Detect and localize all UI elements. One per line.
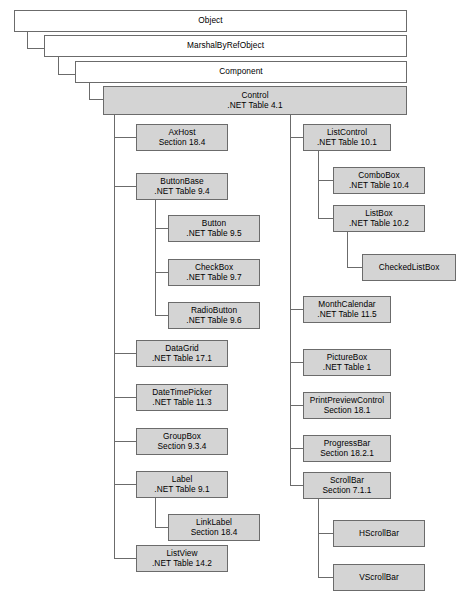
connector-branch-hscrollbar <box>318 533 333 534</box>
node-vscrollbar: VScrollBar <box>333 564 425 591</box>
node-listview: ListView .NET Table 14.2 <box>136 545 228 572</box>
node-object: Object <box>14 10 407 32</box>
node-component: Component <box>75 61 407 83</box>
connector-component-to-control <box>89 83 90 100</box>
connector-branch-picturebox <box>290 362 303 363</box>
node-radiobutton-ref: .NET Table 9.6 <box>186 316 241 326</box>
connector-buttonbase-subtrunk <box>155 200 156 316</box>
connector-branch-progressbar <box>290 448 303 449</box>
connector-branch-datagrid <box>114 353 136 354</box>
node-listcontrol-ref: .NET Table 10.1 <box>317 138 377 148</box>
node-listbox-ref: .NET Table 10.2 <box>349 219 409 229</box>
node-component-name: Component <box>219 67 262 77</box>
connector-label-subtrunk <box>155 498 156 528</box>
node-buttonbase: ButtonBase .NET Table 9.4 <box>136 173 228 200</box>
node-datetimepicker-ref: .NET Table 11.3 <box>152 398 211 408</box>
node-hscrollbar: HScrollBar <box>333 520 425 547</box>
node-control: Control .NET Table 4.1 <box>103 86 407 115</box>
node-label-ref: .NET Table 9.1 <box>154 485 209 495</box>
node-control-ref: .NET Table 4.1 <box>227 101 282 111</box>
node-object-name: Object <box>198 16 222 26</box>
node-marshalbyrefobject-name: MarshalByRefObject <box>187 41 264 51</box>
connector-branch-combobox <box>318 180 333 181</box>
node-datagrid-ref: .NET Table 17.1 <box>152 354 212 364</box>
node-linklabel-ref: Section 18.4 <box>191 528 238 538</box>
connector-scrollbar-subtrunk <box>318 499 319 578</box>
node-vscrollbar-name: VScrollBar <box>359 573 399 583</box>
node-marshalbyrefobject: MarshalByRefObject <box>44 35 407 57</box>
connector-control-left-trunk <box>114 114 115 559</box>
connector-branch-axhost <box>114 137 136 138</box>
node-combobox-ref: .NET Table 10.4 <box>349 181 409 191</box>
connector-branch-linklabel <box>155 527 168 528</box>
node-radiobutton: RadioButton .NET Table 9.6 <box>168 302 260 329</box>
connector-branch-listbox <box>318 218 333 219</box>
connector-branch-monthcalendar <box>290 309 303 310</box>
class-hierarchy-diagram: Object MarshalByRefObject Component Cont… <box>0 0 474 602</box>
node-listcontrol: ListControl .NET Table 10.1 <box>303 124 391 151</box>
node-monthcalendar-ref: .NET Table 11.5 <box>317 310 376 320</box>
node-hscrollbar-name: HScrollBar <box>359 529 399 539</box>
connector-marshalbyrefobject-to-component <box>58 57 59 75</box>
connector-object-to-marshalbyrefobject <box>27 32 28 49</box>
connector-listcontrol-subtrunk <box>318 151 319 219</box>
node-scrollbar: ScrollBar Section 7.1.1 <box>303 472 391 499</box>
connector-object-to-marshalbyrefobject-horizontal <box>27 48 44 49</box>
connector-branch-radiobutton <box>155 315 168 316</box>
node-linklabel: LinkLabel Section 18.4 <box>168 514 260 541</box>
node-listview-ref: .NET Table 14.2 <box>152 559 212 569</box>
node-printpreviewcontrol: PrintPreviewControl Section 18.1 <box>303 392 391 419</box>
node-groupbox: GroupBox Section 9.3.4 <box>136 428 228 455</box>
node-button-ref: .NET Table 9.5 <box>186 229 241 239</box>
node-listbox: ListBox .NET Table 10.2 <box>333 205 425 232</box>
node-checkedlistbox: CheckedListBox <box>362 254 456 281</box>
node-button: Button .NET Table 9.5 <box>168 215 260 242</box>
node-progressbar: ProgressBar Section 18.2.1 <box>303 435 391 462</box>
connector-branch-printpreviewcontrol <box>290 405 303 406</box>
connector-branch-buttonbase <box>114 186 136 187</box>
node-picturebox-ref: .NET Table 1 <box>323 363 371 373</box>
node-label: Label .NET Table 9.1 <box>136 471 228 498</box>
connector-branch-checkbox <box>155 272 168 273</box>
connector-control-right-trunk <box>290 114 291 486</box>
node-checkedlistbox-name: CheckedListBox <box>379 263 440 273</box>
connector-branch-datetimepicker <box>114 397 136 398</box>
connector-branch-scrollbar <box>290 485 303 486</box>
connector-branch-button <box>155 228 168 229</box>
connector-marshalbyrefobject-to-component-horizontal <box>58 74 76 75</box>
node-datagrid: DataGrid .NET Table 17.1 <box>136 340 228 367</box>
connector-branch-groupbox <box>114 441 136 442</box>
node-combobox: ComboBox .NET Table 10.4 <box>333 167 425 194</box>
connector-component-to-control-horizontal <box>89 99 104 100</box>
connector-branch-checkedlistbox <box>347 267 362 268</box>
node-checkbox-ref: .NET Table 9.7 <box>186 273 241 283</box>
node-groupbox-ref: Section 9.3.4 <box>157 442 206 452</box>
node-checkbox: CheckBox .NET Table 9.7 <box>168 259 260 286</box>
connector-branch-vscrollbar <box>318 577 333 578</box>
node-datetimepicker: DateTimePicker .NET Table 11.3 <box>136 384 228 411</box>
node-scrollbar-ref: Section 7.1.1 <box>322 486 371 496</box>
connector-listbox-subtrunk <box>347 232 348 268</box>
node-progressbar-ref: Section 18.2.1 <box>320 449 374 459</box>
node-buttonbase-ref: .NET Table 9.4 <box>154 187 209 197</box>
connector-branch-listcontrol <box>290 137 303 138</box>
node-picturebox: PictureBox .NET Table 1 <box>303 349 391 376</box>
connector-branch-label <box>114 484 136 485</box>
node-monthcalendar: MonthCalendar .NET Table 11.5 <box>303 296 391 323</box>
connector-branch-listview <box>114 558 136 559</box>
node-axhost: AxHost Section 18.4 <box>136 124 228 151</box>
node-axhost-ref: Section 18.4 <box>159 138 206 148</box>
node-printpreviewcontrol-ref: Section 18.1 <box>324 406 371 416</box>
